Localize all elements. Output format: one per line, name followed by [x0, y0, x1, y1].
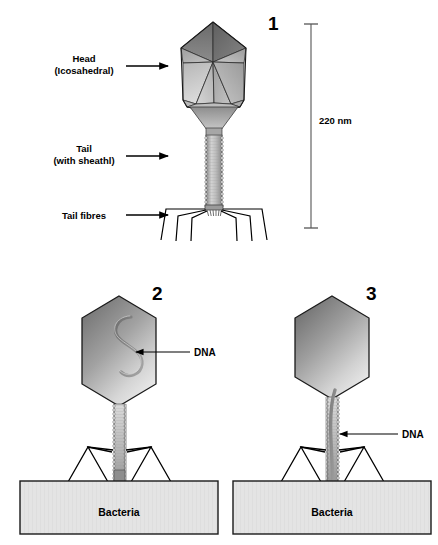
scale-bar: 220 nm: [304, 24, 362, 228]
bacteriophage-diagram: 1: [0, 0, 438, 545]
label-tail: Tail (with sheathl): [53, 143, 168, 166]
bacteria-label-panel3: Bacteria: [311, 506, 353, 518]
label-tail-line2: (with sheathl): [53, 155, 114, 166]
label-head: Head (Icosahedral): [54, 53, 168, 76]
label-dna-panel3: DNA: [340, 429, 424, 440]
phage-head-hexagon-panel2: [82, 296, 156, 406]
label-dna-panel3-text: DNA: [402, 429, 424, 440]
label-head-line1: Head: [72, 53, 95, 64]
bacteria-panel3: Bacteria: [233, 481, 431, 534]
phage-collar: [190, 107, 238, 136]
panel-2-number: 2: [152, 283, 163, 304]
panel-1-group: 1: [53, 13, 362, 241]
panel-3-number: 3: [366, 283, 377, 304]
phage-tail-fibres: [161, 205, 267, 241]
bacteria-panel2: Bacteria: [20, 481, 218, 534]
bacteria-label-panel2: Bacteria: [98, 506, 140, 518]
label-head-line2: (Icosahedral): [54, 65, 113, 76]
label-tail-line1: Tail: [76, 143, 92, 154]
phage-tail-sheath: [204, 135, 224, 207]
panel-2-group: 2 Bacteria: [20, 283, 218, 534]
panel-1-number: 1: [268, 13, 279, 34]
panel-3-group: 3 Bacteria DNA: [233, 283, 431, 534]
phage-head-hexagon-panel3: [295, 296, 369, 399]
scale-bar-label: 220 nm: [319, 115, 352, 126]
phage-head-icosahedral: [181, 22, 246, 112]
label-dna-panel2-text: DNA: [194, 347, 216, 358]
label-tail-fibres: Tail fibres: [62, 210, 168, 221]
label-tail-fibres-text: Tail fibres: [62, 210, 106, 221]
diagram-canvas: 1: [0, 0, 438, 545]
